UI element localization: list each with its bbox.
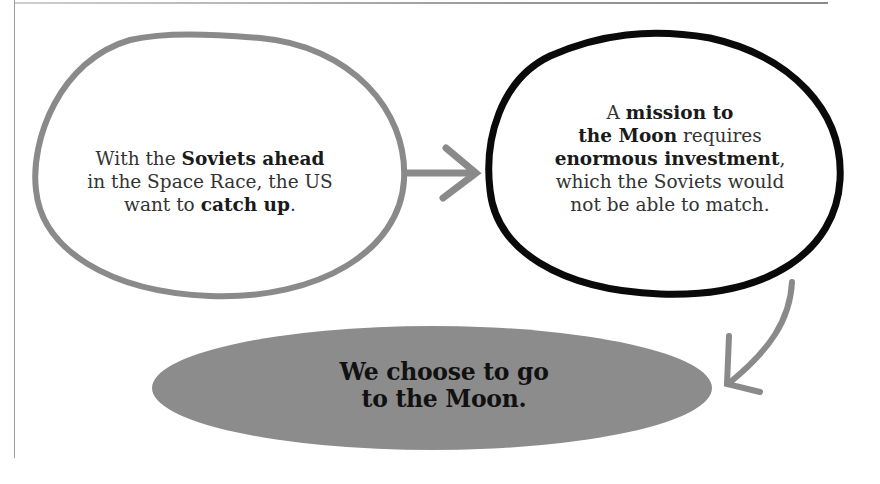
text-span: A	[607, 102, 626, 123]
emphasis-investment: enormous investment	[555, 148, 780, 169]
conclusion-text: We choose to go to the Moon.	[264, 359, 624, 413]
bubble-1-text: With the Soviets ahead in the Space Race…	[68, 147, 352, 216]
conclusion-line-1: We choose to go	[339, 358, 548, 386]
bubble-2-text: A mission to the Moon requires enormous …	[520, 101, 820, 216]
emphasis-soviets-ahead: Soviets ahead	[182, 148, 325, 169]
text-span: not be able to match.	[570, 194, 769, 215]
text-span: ,	[779, 148, 785, 169]
text-span: requires	[677, 125, 762, 146]
conclusion-line-2: to the Moon.	[362, 385, 527, 413]
emphasis-catch-up: catch up	[201, 194, 290, 215]
text-span: want to	[124, 194, 201, 215]
text-span: .	[290, 194, 296, 215]
emphasis-mission: mission to	[626, 102, 734, 123]
text-span: which the Soviets would	[556, 171, 785, 192]
curved-arrow-down-icon	[727, 282, 792, 392]
text-span: With the	[96, 148, 182, 169]
arrow-right-icon	[408, 148, 476, 198]
text-span: in the Space Race, the US	[87, 171, 333, 192]
emphasis-the-moon: the Moon	[578, 125, 677, 146]
